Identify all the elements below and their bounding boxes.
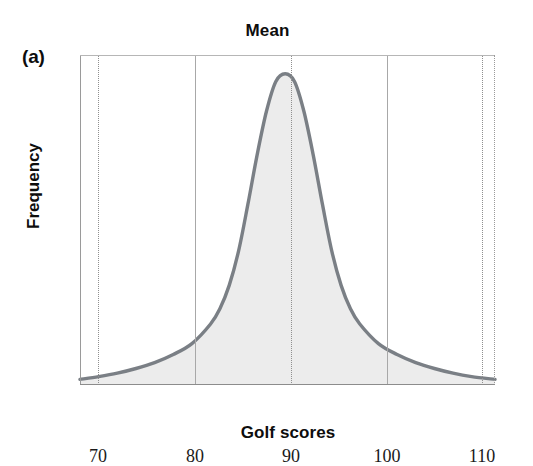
plot-frame-right-border: [494, 55, 495, 385]
x-axis-title: Golf scores: [80, 423, 496, 443]
chart-title-mean: Mean: [1, 21, 533, 41]
x-tick-label-100: 100: [357, 446, 417, 466]
frequency-curve-svg: [80, 55, 495, 385]
x-tick-label-70: 70: [68, 446, 128, 466]
panel-letter-label: (a): [22, 46, 45, 68]
x-tick-label-110: 110: [452, 446, 512, 466]
gridline-80: [195, 55, 196, 385]
x-tick-label-90: 90: [261, 446, 321, 466]
y-axis-title: Frequency: [24, 126, 44, 246]
gridline-110: [482, 55, 483, 385]
x-axis-line: [80, 384, 495, 385]
gridline-100: [387, 55, 388, 385]
x-tick-label-80: 80: [165, 446, 225, 466]
curve-fill-area: [80, 74, 495, 385]
plot-area: 70 80 90 100 110: [80, 55, 495, 385]
gridline-70: [98, 55, 99, 385]
gridline-90-mean: [291, 55, 292, 385]
plot-frame-top-border: [80, 55, 495, 56]
plot-frame-left-border: [80, 55, 81, 385]
